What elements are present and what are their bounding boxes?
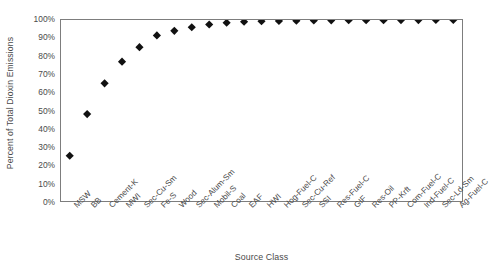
x-tick-label: MSW [73,204,79,210]
y-tick-label: 100% [34,15,55,23]
x-tick-label: Sec-Cu-Ref [301,204,307,210]
data-point [362,20,370,24]
data-point [310,20,318,25]
x-tick-label: Res-Oil [371,204,377,210]
x-tick-label: Coal [230,204,236,210]
x-tick-label: MWI [125,204,131,210]
x-tick-label: SSI [318,204,324,210]
dioxin-emissions-scatter-chart: Percent of Total Dioxin Emissions 0%10%2… [0,0,497,273]
x-tick-label: PP-Krft [388,204,394,210]
data-point [153,31,161,39]
y-tick-label: 90% [38,33,55,41]
y-tick-label: 50% [38,106,55,114]
data-point [257,20,265,25]
x-tick-label: Sec-Alum-Sm [195,204,201,210]
data-point [240,20,248,26]
data-point [223,20,231,27]
x-tick-label: Res-Fuel-C [336,204,342,210]
y-tick-label: 30% [38,143,55,151]
x-tick-label: Ag-Fuel-C [458,204,464,210]
data-point [379,20,387,24]
y-tick-label: 0% [43,198,55,206]
x-tick-label: HWI [266,204,272,210]
x-tick-label: Fe-S [160,204,166,210]
data-point [327,20,335,24]
data-point [432,20,440,24]
data-point [101,79,109,87]
y-axis-title: Percent of Total Dioxin Emissions [2,0,18,205]
y-tick-label: 40% [38,125,55,133]
plot-area [60,19,463,202]
data-point [414,20,422,24]
x-tick-label: Com-Fuel-C [406,204,412,210]
x-tick-label: Sec-Ld-Sm [441,204,447,210]
data-point [188,23,196,31]
x-axis-title: Source Class [60,252,463,262]
data-point [397,20,405,24]
x-tick-label: Wood [178,204,184,210]
x-tick-label: Ind-Fuel-C [423,204,429,210]
y-axis-title-text: Percent of Total Dioxin Emissions [5,36,15,168]
x-tick-label: Cement-K [108,204,114,210]
y-tick-label: 70% [38,70,55,78]
data-point [275,20,283,25]
data-point [170,27,178,35]
x-tick-label: BB [90,204,96,210]
x-tick-label: Mobil-S [213,204,219,210]
data-point [118,58,126,66]
x-tick-label: Sec-Cu-Sm [143,204,149,210]
data-point [292,20,300,25]
data-point [135,43,143,51]
data-point [83,110,91,118]
y-tick-label: 60% [38,88,55,96]
y-tick-label: 20% [38,161,55,169]
x-tick-label: EAF [248,204,254,210]
y-axis-tick-labels: 0%10%20%30%40%50%60%70%80%90%100% [18,19,58,202]
data-point [345,20,353,24]
y-tick-label: 10% [38,179,55,187]
data-point [66,152,74,160]
x-tick-label: Hog-Fuel-C [283,204,289,210]
y-tick-label: 80% [38,51,55,59]
data-point [449,20,457,24]
data-point-layer [61,20,462,201]
data-point [205,20,213,28]
x-tick-label: GIF [353,204,359,210]
